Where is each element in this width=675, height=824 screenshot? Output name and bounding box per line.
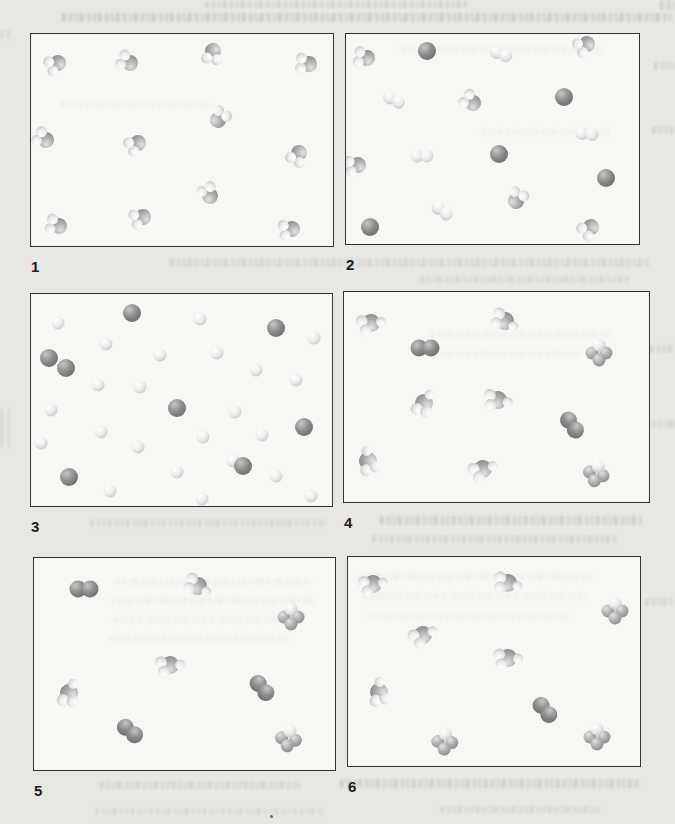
bleed-text-artifact [340,779,640,788]
panel-6-label: 6 [348,778,357,795]
panel-2-label: 2 [346,256,355,273]
bleed-text-artifact [367,613,572,620]
bleed-text-artifact [62,13,672,22]
atom-sphere [593,339,606,352]
bleed-text-artifact [652,126,674,134]
bleed-text-artifact [170,258,650,267]
ink-speck [270,815,273,818]
atom-sphere [585,128,599,142]
atom-sphere [132,440,145,453]
panel-3-label: 3 [31,518,40,535]
atom-sphere [421,149,434,162]
bleed-text-artifact [111,597,316,604]
bleed-text-artifact [431,331,611,338]
atom-sphere [255,428,268,441]
panel-6: 6 [347,556,641,767]
atom-sphere [228,405,241,418]
atom-sphere [270,470,283,483]
atom-sphere [195,493,208,506]
atom-sphere [40,349,58,367]
bleed-text-artifact [109,635,289,642]
bleed-text-artifact [654,62,674,70]
bleed-text-artifact [660,0,675,10]
atom-sphere [609,597,622,610]
atom-sphere [285,602,298,615]
bleed-text-artifact [90,519,325,527]
bleed-text-artifact [100,781,300,789]
bleed-text-artifact [0,408,10,448]
atom-sphere [134,381,147,394]
atom-sphere [308,331,321,344]
bleed-text-artifact [431,351,581,358]
atom-sphere [99,337,112,350]
bleed-text-artifact [440,806,600,813]
bleed-text-artifact [645,598,673,606]
bleed-text-artifact [116,578,311,585]
panel-1: 1 [30,33,334,247]
atom-sphere [60,468,78,486]
bleed-text-artifact [359,573,594,580]
atom-sphere [170,466,183,479]
atom-sphere [555,88,573,106]
molecule-field-6 [347,556,641,767]
atom-sphere [34,436,47,449]
atom-sphere [234,457,252,475]
bleed-text-artifact [113,616,303,623]
atom-sphere [267,319,285,337]
atom-sphere [418,42,436,60]
atom-sphere [193,312,206,325]
molecule-field-2 [345,33,640,245]
atom-sphere [593,354,606,367]
atom-sphere [437,742,451,756]
atom-sphere [44,403,57,416]
atom-sphere [423,340,440,357]
atom-sphere [290,374,303,387]
panel-3: 3 [30,293,333,507]
atom-sphere [295,418,313,436]
molecule-field-1 [30,33,334,247]
atom-sphere [123,304,141,322]
panel-5: 5 [33,557,336,771]
atom-sphere [51,316,64,329]
bleed-text-artifact [363,593,588,600]
atom-sphere [250,364,263,377]
atom-sphere [91,379,104,392]
atom-sphere [305,490,318,503]
bleed-text-artifact [652,420,674,428]
atom-sphere [490,145,508,163]
atom-sphere [94,425,107,438]
atom-sphere [81,580,98,597]
molecule-field-3 [30,293,333,507]
atom-sphere [104,485,117,498]
atom-sphere [57,359,75,377]
bleed-text-artifact [420,276,630,283]
atom-sphere [168,399,186,417]
bleed-text-artifact [61,101,211,108]
panel-5-label: 5 [34,782,43,799]
atom-sphere [609,612,622,625]
atom-sphere [210,346,223,359]
bleed-text-artifact [380,516,642,525]
panel-2: 2 [345,33,640,245]
atom-sphere [285,617,298,630]
atom-sphere [361,218,379,236]
atom-sphere [591,723,604,736]
molecule-field-5 [33,557,336,771]
bleed-text-artifact [95,808,325,815]
panel-1-label: 1 [31,258,40,275]
atom-sphere [154,349,167,362]
atom-sphere [597,169,615,187]
bleed-text-artifact [205,1,467,8]
bleed-text-artifact [650,345,674,353]
molecule-field-4 [343,291,650,503]
atom-sphere [196,430,209,443]
bleed-text-artifact [372,535,617,543]
panel-4: 4 [343,291,650,503]
panel-4-label: 4 [344,514,353,531]
bleed-text-artifact [0,30,12,39]
atom-sphere [591,738,604,751]
scanned-textbook-page: { "page": { "background": "#e8e7e4", "pa… [0,0,675,824]
atom-sphere [200,585,213,598]
